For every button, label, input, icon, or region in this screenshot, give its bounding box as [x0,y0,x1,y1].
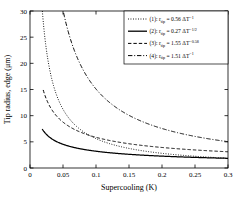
chart-svg: 00.050.10.150.20.250.3051015202530Superc… [0,0,234,201]
x-tick-label: 0 [28,171,32,179]
y-tick-label: 10 [20,112,28,120]
y-axis-label: Tip radius, edge (μm) [3,55,12,125]
x-tick-label: 0.3 [224,171,233,179]
x-tick-label: 0.1 [92,171,101,179]
y-tick-label: 0 [24,165,28,173]
x-tick-label: 0.2 [158,171,167,179]
y-tick-label: 20 [20,60,28,68]
y-tick-label: 30 [20,8,28,16]
x-tick-label: 0.05 [57,171,70,179]
series-curve-2 [42,129,228,158]
figure-container: 00.050.10.150.20.250.3051015202530Superc… [0,0,234,201]
y-tick-label: 25 [20,34,28,42]
y-tick-label: 5 [24,138,28,146]
x-tick-label: 0.15 [123,171,136,179]
x-axis-label: Supercooling (K) [101,183,157,192]
x-tick-label: 0.25 [189,171,202,179]
y-tick-label: 15 [20,86,28,94]
